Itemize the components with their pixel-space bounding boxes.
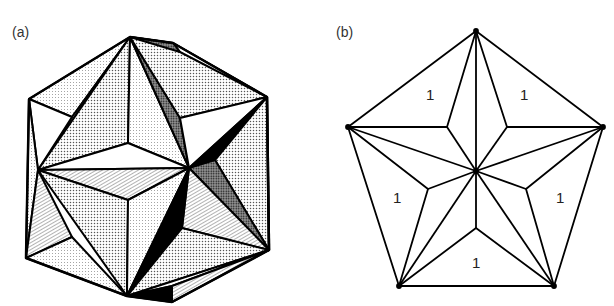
pentagon-net [346, 29, 605, 288]
face-label-top-right: 1 [520, 86, 528, 103]
diagram-canvas: 1 1 1 1 1 [0, 0, 614, 306]
face-label-left: 1 [393, 189, 401, 206]
polyhedron-drawing [26, 37, 269, 302]
face-label-top-left: 1 [426, 86, 434, 103]
face-label-bottom: 1 [472, 254, 480, 271]
face-label-right: 1 [556, 189, 564, 206]
figure: (a) (b) [0, 0, 614, 306]
